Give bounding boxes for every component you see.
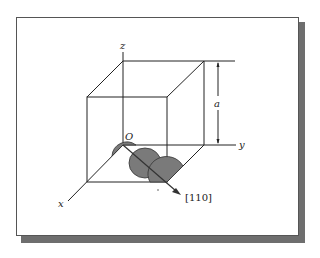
cube-edge (167, 61, 204, 97)
direction-label: [110] (185, 192, 212, 203)
lattice-param-label: a (214, 98, 220, 109)
dot-mark (157, 189, 159, 191)
unit-cell-diagram: z y x O a [110] (0, 0, 320, 258)
x-axis-label: x (58, 198, 64, 209)
arrowhead-down-icon (217, 139, 220, 144)
arrowhead-up-icon (217, 62, 220, 67)
origin-label: O (125, 131, 133, 142)
z-axis-label: z (119, 40, 126, 51)
cube-edge (87, 61, 123, 97)
y-axis-label: y (238, 139, 245, 150)
